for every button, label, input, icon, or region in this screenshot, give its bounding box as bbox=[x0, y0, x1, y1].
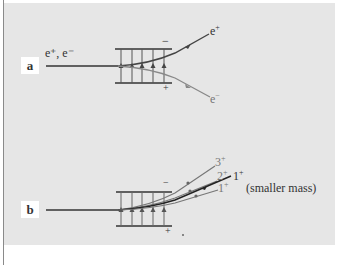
plate-bottom-sign-a: + bbox=[163, 82, 169, 93]
deflection-diagram bbox=[0, 0, 344, 265]
plate-top-sign-b: − bbox=[163, 177, 169, 188]
smaller-mass-note: (smaller mass) bbox=[246, 181, 316, 196]
panel-b-label: b bbox=[21, 201, 39, 218]
panel-b-diagram bbox=[46, 166, 231, 236]
plate-top-sign-a: − bbox=[162, 34, 169, 49]
panel-a-label: a bbox=[21, 57, 39, 74]
positron-label: e+ bbox=[210, 23, 220, 39]
incoming-beam-label: e⁺, e⁻ bbox=[45, 46, 74, 61]
beam-1plus-heavy-label: 1+ bbox=[233, 168, 244, 184]
plate-bottom-sign-b: + bbox=[165, 225, 171, 236]
panel-a-diagram bbox=[46, 34, 210, 97]
beam-1plus-label: 1+ bbox=[218, 180, 229, 196]
electron-label: e− bbox=[210, 91, 220, 107]
